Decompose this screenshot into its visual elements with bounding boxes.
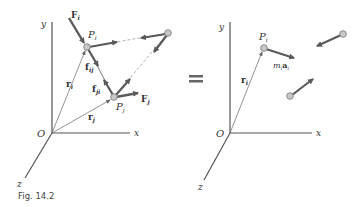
right-z-label: z <box>197 182 203 192</box>
right-miai-vector <box>266 49 294 58</box>
force-p3-to-pj <box>154 35 167 52</box>
right-axes: y x z O <box>197 22 321 192</box>
right-particle-3 <box>287 93 294 100</box>
label-fji: fji <box>92 84 101 96</box>
left-ri-vector <box>52 51 85 133</box>
left-particle-p3 <box>165 30 172 37</box>
force-p3-to-pi <box>141 34 166 38</box>
left-x-label: x <box>134 128 139 138</box>
left-z-label: z <box>16 179 22 189</box>
right-ri-label: ri <box>241 75 249 86</box>
figure-caption: Fig. 14.2 <box>18 191 54 201</box>
left-rj-label: rj <box>88 112 96 124</box>
right-z-axis <box>204 133 230 180</box>
right-inertia-vector-3 <box>292 79 313 95</box>
left-label-pj: Pj <box>115 101 125 114</box>
left-particle-pi <box>84 44 91 51</box>
left-z-axis <box>25 133 52 178</box>
label-fij: fij <box>85 62 94 74</box>
left-y-label: y <box>40 19 47 29</box>
left-rj-vector <box>52 100 110 133</box>
figure-canvas: y x z O ri rj Fi Fj fij fji Pi <box>0 0 364 207</box>
right-particle-pi <box>261 45 268 52</box>
force-pj-to-p3 <box>115 79 130 96</box>
right-y-label: y <box>218 22 225 32</box>
left-label-pi: Pi <box>87 29 97 41</box>
left-particle-pj <box>111 94 118 101</box>
left-ri-label: ri <box>66 79 74 90</box>
right-inertia-vector-2 <box>317 35 341 46</box>
left-diagram: y x z O ri rj Fi Fj fij fji Pi <box>16 10 171 189</box>
label-Fj: Fj <box>141 94 150 106</box>
right-ri-vector <box>230 52 262 133</box>
right-origin-label: O <box>216 128 224 139</box>
label-Fi: Fi <box>71 10 80 21</box>
force-pi-to-p3 <box>89 42 117 47</box>
force-Fi <box>69 18 84 43</box>
right-label-miai: miai <box>273 60 289 71</box>
right-diagram: y x z O ri Pi miai <box>197 22 346 192</box>
right-x-label: x <box>316 128 321 138</box>
equals-sign <box>189 75 203 83</box>
right-particle-2 <box>340 31 347 38</box>
right-label-pi: Pi <box>258 31 268 43</box>
left-origin-label: O <box>37 128 45 139</box>
force-Fj <box>116 93 138 97</box>
